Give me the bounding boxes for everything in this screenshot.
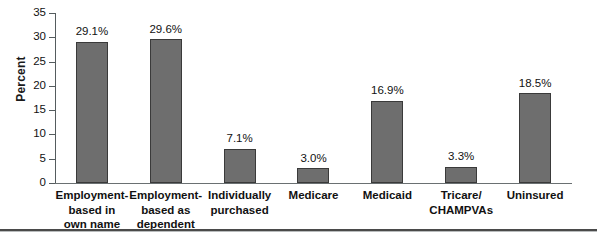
bar-value-label: 7.1% xyxy=(197,133,283,145)
bar-value-label: 3.3% xyxy=(418,151,504,163)
x-axis-category-label: Employment-based inown name xyxy=(55,188,129,232)
y-axis-tick-label-20: 20 xyxy=(20,80,46,92)
x-axis-line xyxy=(55,183,572,184)
bar-group: 29.6% xyxy=(129,13,203,183)
x-axis-category-label: Tricare/CHAMPVAs xyxy=(424,188,498,217)
bar xyxy=(224,149,256,183)
bar-group: 29.1% xyxy=(55,13,129,183)
bar xyxy=(519,93,551,183)
y-axis-tick-label-5: 5 xyxy=(20,153,46,165)
plot-area: 29.1%29.6%7.1%3.0%16.9%3.3%18.5% xyxy=(55,13,572,183)
bar-value-label: 3.0% xyxy=(271,153,357,165)
y-axis-tick-label-25: 25 xyxy=(20,56,46,68)
bar-chart-figure: Percent 35302520151050 29.1%29.6%7.1%3.0… xyxy=(0,0,597,238)
bar xyxy=(150,39,182,183)
y-axis-tick-label-15: 15 xyxy=(20,104,46,116)
bar xyxy=(76,42,108,183)
bar xyxy=(371,101,403,183)
y-axis-tick-label-10: 10 xyxy=(20,128,46,140)
y-axis-tick-label-35: 35 xyxy=(20,7,46,19)
y-axis-tick-label-30: 30 xyxy=(20,31,46,43)
y-axis-tick-label-0: 0 xyxy=(20,177,46,189)
bar-group: 16.9% xyxy=(350,13,424,183)
bar-group: 3.0% xyxy=(277,13,351,183)
page-bottom-rule-shadow xyxy=(0,231,597,232)
bar-group: 7.1% xyxy=(203,13,277,183)
bar-group: 3.3% xyxy=(424,13,498,183)
x-axis-category-label: Uninsured xyxy=(498,188,572,203)
bar-value-label: 29.6% xyxy=(123,24,209,36)
x-axis-category-label: Employment-based asdependent xyxy=(129,188,203,232)
x-axis-category-label: Medicare xyxy=(277,188,351,203)
bar-value-label: 16.9% xyxy=(344,85,430,97)
x-axis-category-label: Medicaid xyxy=(350,188,424,203)
bar xyxy=(445,167,477,183)
bar xyxy=(297,168,329,183)
x-axis-category-label: Individuallypurchased xyxy=(203,188,277,217)
bar-value-label: 18.5% xyxy=(492,78,578,90)
bar-group: 18.5% xyxy=(498,13,572,183)
